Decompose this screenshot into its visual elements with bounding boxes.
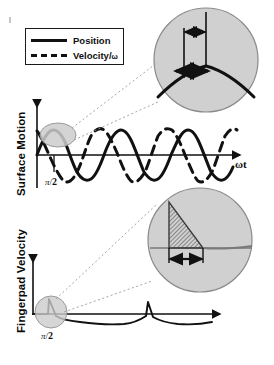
leader-line-top-lower [74,101,160,140]
leader-line-bottom-lower [64,281,152,312]
surface-motion-highlight [40,123,76,147]
fingerpad-velocity-highlight [35,296,67,328]
inset-top [154,8,258,112]
leader-line-top-upper [72,62,158,128]
inset-bottom [148,188,252,292]
figure-vector-layer [0,0,274,365]
figure-root: Position Velocity/ω Surface Motion Finge… [0,0,274,365]
inset-bottom-circle [148,188,252,292]
